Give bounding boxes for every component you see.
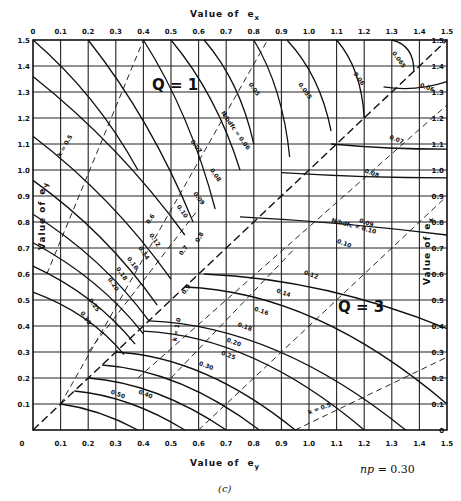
tick-label: 0.7 [220, 28, 233, 36]
tick-label: 0.4 [18, 323, 31, 331]
tick-label: 0.9 [432, 193, 445, 201]
top-axis-title: Value ofex [190, 9, 260, 22]
tick-label: 1.5 [441, 28, 454, 36]
k-line-label: 0.7 [177, 244, 189, 257]
tick-label: 1.2 [432, 115, 445, 123]
curve-label: 0.14 [137, 245, 151, 261]
tick-label: 0.4 [137, 440, 150, 448]
right-axis-ticks: 00.10.20.30.40.50.60.70.80.91.01.11.21.3… [432, 37, 445, 435]
k-line-label: k = 1.0 [171, 317, 182, 342]
tick-label: 1.3 [386, 28, 399, 36]
tick-label: 1.0 [303, 28, 316, 36]
tick-label: 0.1 [54, 28, 67, 36]
tick-label: 1.5 [441, 440, 454, 448]
curve-label: 0.14 [276, 287, 292, 299]
curve-label: 0.05 [247, 81, 261, 97]
tick-label: 0.4 [137, 28, 150, 36]
curve-label: 0.20 [226, 336, 242, 348]
curve-label: 0.16 [126, 255, 140, 271]
curve-label: 0.055 [297, 81, 314, 101]
curve-label: 0.08 [209, 167, 223, 183]
tick-label: 0.9 [275, 440, 288, 448]
tick-label: 0.1 [18, 401, 31, 409]
tick-label: 0.7 [432, 245, 445, 253]
tick-label: 1.4 [18, 63, 31, 71]
tick-label: 1.1 [18, 141, 31, 149]
tick-label: 0.3 [110, 440, 123, 448]
top-axis-ticks: 00.10.20.30.40.50.60.70.80.91.01.11.21.3… [31, 28, 454, 36]
curve-label: 0.20 [107, 276, 121, 292]
tick-label: 1.2 [358, 28, 371, 36]
bottom-axis-title: Value ofey [190, 458, 260, 471]
tick-label: 0.3 [18, 349, 31, 357]
curve-label: 0.12 [148, 232, 162, 248]
tick-label: 0.8 [18, 219, 31, 227]
tick-label: 0.1 [54, 440, 67, 448]
tick-label: 0.7 [220, 440, 233, 448]
annotation-n-bdfc: N/bdfc = 0.06 [220, 109, 252, 151]
curve-label: 0.25 [87, 297, 101, 313]
tick-label: 1.2 [358, 440, 371, 448]
curve-label: 0.09 [192, 190, 206, 206]
tick-label: 0.6 [18, 271, 31, 279]
tick-label: 0.6 [432, 271, 445, 279]
tick-label: 0 [439, 427, 444, 435]
tick-label: 0.5 [18, 297, 31, 305]
k-line-label: 0.9 [180, 283, 192, 296]
tick-label: 1.0 [303, 440, 316, 448]
tick-label: 1.3 [18, 89, 31, 97]
curve-label: 0.07 [190, 138, 204, 154]
tick-label: 0.6 [192, 440, 205, 448]
tick-label: 1.1 [432, 141, 445, 149]
curve-label: 0.18 [115, 265, 129, 281]
curve-label: 0.16 [253, 305, 269, 317]
panel-label: (c) [218, 483, 232, 494]
tick-label: 0.5 [432, 297, 445, 305]
tick-label: 0 [20, 440, 25, 448]
curve-label: 0.30 [198, 359, 214, 371]
tick-label: 1.2 [18, 115, 31, 123]
interaction-chart: 00.10.20.30.40.50.60.70.80.91.01.11.21.3… [0, 0, 461, 501]
k-line-label: 0.6 [144, 212, 156, 225]
curve-label: 0.07 [389, 133, 405, 145]
tick-label: 0.2 [432, 375, 445, 383]
tick-label: 0.5 [165, 440, 178, 448]
tick-label: 0.2 [18, 375, 31, 383]
tick-label: 1.1 [330, 440, 343, 448]
bottom-axis-ticks: 00.10.20.30.40.50.60.70.80.91.01.11.21.3… [20, 440, 454, 448]
tick-label: 1.0 [18, 167, 31, 175]
k-line-label: k = 0.5 [55, 133, 73, 157]
region-label-q1: Q = 1 [152, 76, 198, 94]
tick-label: 0.6 [192, 28, 205, 36]
tick-label: 0.1 [432, 401, 445, 409]
left-axis-ticks: 0.10.20.30.40.50.60.70.80.91.01.11.21.31… [18, 37, 31, 409]
curve-label: 0.10 [336, 237, 352, 249]
curve-label: 0.10 [176, 203, 190, 219]
tick-label: 0.3 [432, 349, 445, 357]
curve-label: 0.12 [303, 268, 319, 280]
tick-label: 0.8 [248, 440, 261, 448]
region-label-q3: Q = 3 [338, 298, 384, 316]
tick-label: 1.1 [330, 28, 343, 36]
tick-label: 0.4 [432, 323, 445, 331]
tick-label: 1.4 [413, 28, 426, 36]
np-parameter-label: np = 0.30 [360, 463, 415, 476]
k-line-label: k = 0.5 [307, 401, 332, 416]
curve-label: 0.40 [138, 388, 154, 400]
k-line-label: 0.8 [193, 231, 204, 244]
tick-label: 0.2 [82, 440, 95, 448]
curve-label: 0.18 [237, 320, 253, 332]
tick-label: 1.5 [432, 37, 445, 45]
tick-label: 1.3 [386, 440, 399, 448]
tick-label: 1.5 [18, 37, 31, 45]
tick-label: 0.3 [110, 28, 123, 36]
tick-label: 1.4 [432, 63, 445, 71]
curve-label: 0.06 [419, 81, 435, 93]
tick-label: 0.7 [18, 245, 31, 253]
tick-label: 0.5 [165, 28, 178, 36]
tick-label: 0.9 [275, 28, 288, 36]
tick-label: 1.0 [432, 167, 445, 175]
tick-label: 0.2 [82, 28, 95, 36]
tick-label: 0.9 [18, 193, 31, 201]
tick-label: 0.8 [248, 28, 261, 36]
